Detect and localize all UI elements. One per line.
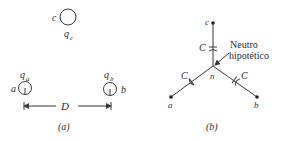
node-a-dot [169,95,173,99]
capacitance-diagram: c q c a q a b q b D (a) [0,0,281,141]
spacing-label: D [60,100,69,112]
conductor-a: a q a [11,69,32,95]
node-b-dot [255,95,259,99]
charge-qb-sub: b [110,75,114,83]
node-a-label: a [168,100,173,110]
charge-qc-sub: c [70,34,74,42]
conductor-a-label: a [11,83,16,94]
charge-qa-base: q [20,69,25,80]
conductor-b: b q b [104,69,127,96]
charge-qa-sub: a [26,75,30,83]
conductor-c-label: c [52,12,57,23]
conductor-c-circle [60,9,76,25]
conductor-c: c q c [52,9,76,42]
annotation-neutro: Neutro [230,39,258,50]
node-c-dot [211,21,215,25]
capacitor-b-label: C [241,70,248,81]
capacitor-c-label: C [199,42,206,53]
caption-a: (a) [58,121,70,133]
neutral-pointer-arrow-icon [215,53,229,65]
charge-qb-base: q [104,69,109,80]
figure-a: c q c a q a b q b D (a) [11,9,126,133]
charge-qc-base: q [64,28,69,39]
node-c-label: c [205,17,209,27]
spacing-dimension: D [24,100,111,112]
node-b-label: b [254,100,259,110]
capacitor-a-label: C [181,70,188,81]
annotation-hipotetico: hipotético [229,50,269,61]
node-n-label: n [210,71,215,81]
figure-b: C C C c a b n Neutro hipotético (b) [168,17,269,133]
caption-b: (b) [206,121,218,133]
conductor-b-label: b [121,84,126,95]
branch-b-n [213,66,257,97]
